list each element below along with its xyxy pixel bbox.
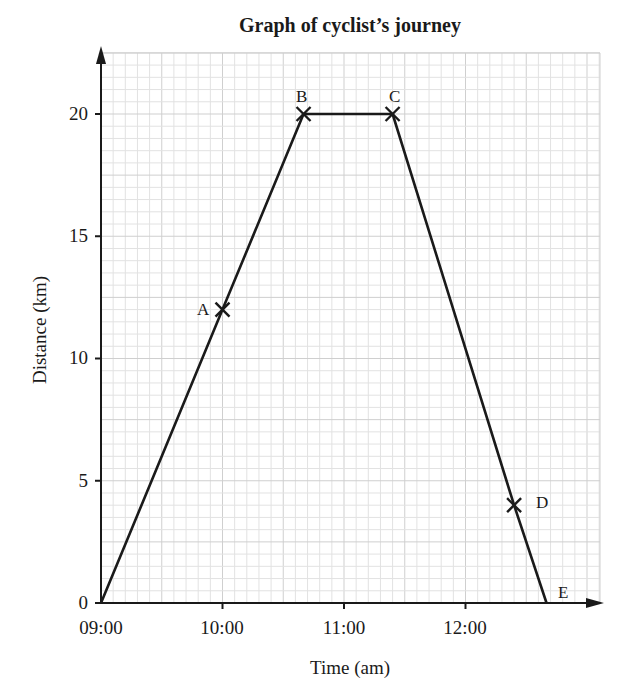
y-tick-label: 20 (69, 103, 88, 124)
ticks (95, 114, 466, 609)
x-tick-label: 11:00 (323, 617, 366, 638)
chart-area: 09:00 10:00 11:00 12:00 0 5 10 15 20 Tim… (0, 0, 624, 699)
y-tick-label: 10 (69, 347, 88, 368)
point-label-d: D (536, 493, 548, 512)
x-axis-arrow-icon (586, 598, 604, 608)
y-tick-label: 0 (79, 592, 89, 613)
x-tick-label: 10:00 (200, 617, 243, 638)
point-label-e: E (558, 583, 568, 602)
grid (101, 53, 600, 603)
x-tick-label: 09:00 (79, 617, 122, 638)
x-axis-title: Time (am) (310, 657, 390, 679)
y-tick-label: 15 (69, 225, 88, 246)
y-axis-title: Distance (km) (29, 276, 51, 384)
y-tick-label: 5 (79, 470, 89, 491)
y-axis (96, 46, 106, 603)
point-label-b: B (296, 87, 307, 106)
point-label-a: A (197, 300, 210, 319)
x-tick-label: 12:00 (443, 617, 486, 638)
x-axis (95, 598, 604, 608)
point-label-c: C (389, 87, 400, 106)
y-axis-arrow-icon (96, 46, 106, 64)
